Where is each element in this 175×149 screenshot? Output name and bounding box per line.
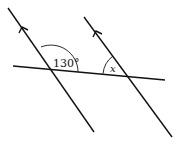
transversal-line — [13, 66, 165, 80]
angle-label-x: x — [110, 63, 116, 74]
angle-label-130: 130° — [53, 57, 80, 70]
parallel-lines-diagram: 130° x — [0, 0, 175, 149]
